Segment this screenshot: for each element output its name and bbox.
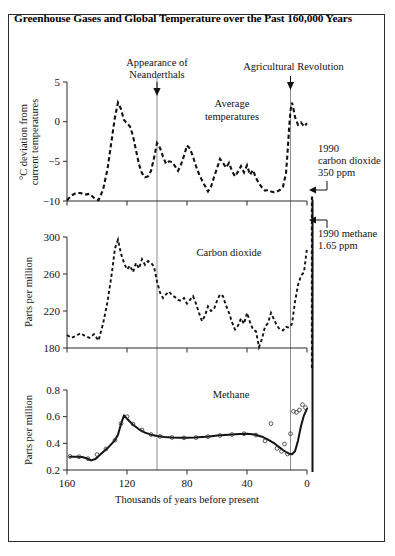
arrow-down-icon <box>287 82 294 90</box>
y-tick-label-methane: 0.6 <box>46 410 60 422</box>
curve-methane <box>70 409 307 461</box>
y-axis-title-methane: Parts per million <box>23 394 34 465</box>
y-tick-label-carbon_dioxide: 180 <box>44 342 61 354</box>
annotation-co2-1990: 350 ppm <box>318 167 355 178</box>
series-label-methane: Methane <box>213 389 250 400</box>
x-tick-label: 160 <box>59 477 76 489</box>
y-tick-label-methane: 0.8 <box>46 384 60 396</box>
x-tick-label: 40 <box>242 477 254 489</box>
series-label-temperature: temperatures <box>205 111 259 122</box>
series-label-temperature: Average <box>215 98 250 109</box>
annotation-methane-1990: 1.65 ppm <box>318 240 358 251</box>
arrow-left-icon <box>309 187 316 194</box>
annotation-agricultural: Agricultural Revolution <box>243 61 344 72</box>
y-tick-label-temperature: −10 <box>43 195 61 207</box>
y-tick-label-methane: 0.2 <box>46 464 60 476</box>
y-tick-label-temperature: 0 <box>55 115 61 127</box>
y-tick-label-carbon_dioxide: 300 <box>44 231 61 243</box>
y-tick-label-temperature: −5 <box>48 155 60 167</box>
x-tick-label: 80 <box>182 477 194 489</box>
y-tick-label-carbon_dioxide: 220 <box>44 305 61 317</box>
arrow-down-icon <box>153 88 160 96</box>
y-axis-title-temperature: °C deviation from <box>18 104 29 180</box>
annotation-co2-1990: carbon dioxide <box>318 155 381 166</box>
annotation-neanderthals: Neanderthals <box>129 69 184 80</box>
leader-line <box>316 220 327 228</box>
annotation-methane-1990: 1990 methane <box>318 228 378 239</box>
leader-line <box>316 181 327 190</box>
y-tick-label-temperature: 5 <box>55 76 61 88</box>
data-point-methane <box>283 442 287 446</box>
data-point-methane <box>269 422 273 426</box>
data-point-methane <box>301 403 305 407</box>
data-point-methane <box>95 453 99 457</box>
series-label-co2: Carbon dioxide <box>196 247 261 258</box>
curve-temperature <box>67 103 307 201</box>
y-axis-title-co2: Parts per million <box>23 256 34 327</box>
y-tick-label-carbon_dioxide: 260 <box>44 268 61 280</box>
guide-lines <box>157 78 291 470</box>
data-point-methane <box>275 447 279 451</box>
x-tick-label: 120 <box>119 477 136 489</box>
y-axis-title-temperature: current temperatures <box>29 99 40 186</box>
data-curves <box>67 103 313 472</box>
x-tick-label: 0 <box>304 477 310 489</box>
data-point-methane <box>263 439 267 443</box>
annotation-co2-1990: 1990 <box>318 143 339 154</box>
axes: 50−5−103002602201800.80.60.40.2160120804… <box>43 76 310 489</box>
data-point-methane <box>304 406 308 410</box>
curve-carbon_dioxide <box>67 240 307 347</box>
annotation-neanderthals: Appearance of <box>126 57 188 68</box>
y-tick-label-methane: 0.4 <box>46 437 60 449</box>
chart-canvas: 50−5−103002602201800.80.60.40.2160120804… <box>0 0 395 556</box>
x-axis-title: Thousands of years before present <box>115 494 259 505</box>
data-point-methane <box>298 408 302 412</box>
